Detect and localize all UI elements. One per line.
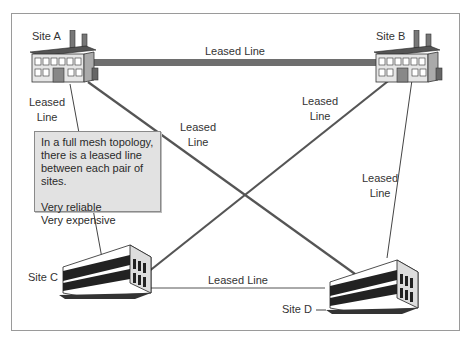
link-b-c-label: Leased Line [302, 94, 338, 124]
info-callout-box: In a full mesh topology, there is a leas… [34, 131, 161, 212]
site-b-label: Site B [376, 30, 405, 42]
site-a-label: Site A [32, 30, 61, 42]
link-a-b-label: Leased Line [205, 44, 265, 59]
link-b-d [387, 80, 412, 258]
link-a-b [90, 59, 380, 66]
link-b-c [138, 78, 392, 280]
link-c-d-label: Leased Line [208, 273, 268, 288]
office-building-icon-site-d [322, 256, 422, 314]
office-building-icon-site-c [55, 241, 155, 299]
link-b-d-label: Leased Line [362, 171, 398, 201]
site-d-label: Site D [282, 303, 312, 315]
link-a-c-label: Leased Line [29, 95, 65, 125]
site-c-label: Site C [28, 271, 58, 283]
link-a-d-label: Leased Line [180, 120, 216, 150]
